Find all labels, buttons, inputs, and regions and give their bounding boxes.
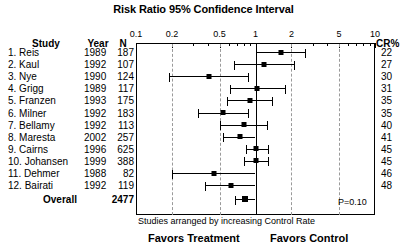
ci-upper-cap: [305, 49, 306, 58]
ci-upper-cap: [256, 182, 257, 191]
x-tick-label-5: 5: [337, 29, 342, 39]
ci-lower-cap: [230, 85, 231, 94]
study-year: 1990: [84, 71, 112, 82]
ci-lower-cap: [198, 109, 199, 118]
favors-treatment-label: Favors Treatment: [148, 232, 240, 244]
control-rate-value: 27: [381, 59, 392, 70]
ci-lower-cap: [256, 49, 257, 58]
control-rate-value: 48: [381, 180, 392, 191]
study-label: 5. Franzen: [8, 95, 84, 106]
gridline-5: [339, 44, 340, 215]
x-minor-tick: [356, 43, 357, 46]
study-n: 625: [112, 144, 134, 155]
confidence-interval-row: [0, 194, 239, 206]
p-value-label: P=0.10: [338, 197, 367, 207]
study-n: 113: [112, 120, 134, 131]
x-minor-tick: [229, 43, 230, 46]
control-rate-value: 22: [381, 47, 392, 58]
ci-upper-cap: [256, 170, 257, 179]
study-n: 187: [112, 47, 134, 58]
study-year: 1992: [84, 59, 112, 70]
ci-lower-cap: [220, 121, 221, 130]
control-rate-value: 35: [381, 95, 392, 106]
ci-lower-cap: [244, 157, 245, 166]
ci-lower-cap: [223, 133, 224, 142]
study-year: 1999: [84, 156, 112, 167]
ci-lower-cap: [169, 73, 170, 82]
x-minor-tick: [193, 43, 194, 46]
x-tick-label-0.2: 0.2: [166, 29, 179, 39]
ci-upper-cap: [285, 85, 286, 94]
point-estimate-marker: [279, 50, 284, 55]
control-rate-value: 45: [381, 144, 392, 155]
study-label: 6. Milner: [8, 108, 84, 119]
ci-lower-cap: [234, 61, 235, 70]
study-label: 10. Johansen: [8, 156, 84, 167]
x-minor-tick: [327, 43, 328, 46]
ci-upper-cap: [294, 61, 295, 70]
ci-upper-cap: [268, 157, 269, 166]
study-n: 117: [112, 83, 134, 94]
ci-upper-cap: [248, 73, 249, 82]
control-rate-value: 41: [381, 132, 392, 143]
study-n: 175: [112, 95, 134, 106]
study-year: 1989: [84, 47, 112, 58]
point-estimate-marker: [253, 146, 258, 151]
control-rate-value: 31: [381, 83, 392, 94]
ci-upper-cap: [248, 109, 249, 118]
point-estimate-marker: [242, 196, 248, 202]
study-label: 4. Grigg: [8, 83, 84, 94]
study-year: 1993: [84, 95, 112, 106]
point-estimate-marker: [241, 122, 246, 127]
ci-upper-cap: [267, 121, 268, 130]
study-n: 257: [112, 132, 134, 143]
study-year: 1988: [84, 168, 112, 179]
control-rate-value: 40: [381, 120, 392, 131]
x-tick-label-1: 1: [253, 29, 258, 39]
study-year: 1992: [84, 180, 112, 191]
study-label: 9. Cairns: [8, 144, 84, 155]
study-year: 1992: [84, 120, 112, 131]
x-minor-tick: [244, 43, 245, 46]
study-label: 8. Maresta: [8, 132, 84, 143]
ci-upper-cap: [272, 97, 273, 106]
control-rate-value: 45: [381, 156, 392, 167]
point-estimate-marker: [262, 62, 267, 67]
x-minor-tick: [250, 43, 251, 46]
point-estimate-marker: [248, 98, 253, 103]
control-rate-value: 46: [381, 168, 392, 179]
x-minor-tick: [237, 43, 238, 46]
x-tick-label-0.1: 0.1: [130, 29, 143, 39]
point-estimate-marker: [253, 158, 258, 163]
control-rate-value: 35: [381, 108, 392, 119]
ci-lower-cap: [235, 196, 236, 205]
point-estimate-marker: [212, 171, 217, 176]
ci-lower-cap: [205, 182, 206, 191]
control-rate-value: 30: [381, 71, 392, 82]
point-estimate-marker: [228, 183, 233, 188]
study-n: 107: [112, 59, 134, 70]
study-label: 7. Bellamy: [8, 120, 84, 131]
study-year: 1989: [84, 83, 112, 94]
study-year: 1992: [84, 108, 112, 119]
point-estimate-marker: [207, 74, 212, 79]
ci-lower-cap: [227, 97, 228, 106]
point-estimate-marker: [220, 110, 225, 115]
x-tick-label-2: 2: [289, 29, 294, 39]
study-label: 11. Dehmer: [8, 168, 84, 179]
study-label: 3. Nye: [8, 71, 84, 82]
x-tick-10: [375, 43, 376, 48]
ci-upper-cap: [256, 133, 257, 142]
study-n: 124: [112, 71, 134, 82]
x-tick-label-10: 10: [370, 29, 380, 39]
ci-lower-cap: [172, 170, 173, 179]
point-estimate-marker: [237, 134, 242, 139]
study-n: 183: [112, 108, 134, 119]
footnote-text: Studies arranged by increasing Control R…: [138, 216, 315, 226]
x-minor-tick: [363, 43, 364, 46]
study-label: 2. Kaul: [8, 59, 84, 70]
x-minor-tick: [348, 43, 349, 46]
chart-title: Risk Ratio 95% Confidence Interval: [0, 3, 407, 15]
x-tick-label-0.5: 0.5: [213, 29, 226, 39]
x-minor-tick: [370, 43, 371, 46]
